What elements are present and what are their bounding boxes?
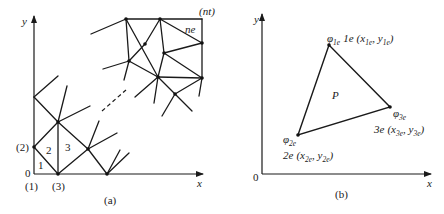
triangle-element (298, 45, 390, 135)
panel-a-x-label: x (196, 177, 202, 189)
vertex-3e (388, 105, 392, 109)
panel-a-origin-label: 0 (25, 167, 31, 179)
element-label-ne: ne (185, 23, 196, 35)
node-label-nt: (nt) (199, 5, 215, 18)
interior-point-label: P (331, 89, 339, 101)
panel-b: y x 0 P φ1e1e(x1e, y1e) φ2e 2e(x2e, y2e)… (253, 13, 432, 201)
vertex-2e-coords: 2e(x2e, y2e) (283, 149, 334, 164)
vertex-3e-phi: φ3e (393, 107, 407, 122)
node-label-2: (2) (16, 141, 29, 154)
element-label-3: 3 (65, 141, 71, 153)
panel-a-y-label: y (21, 15, 27, 27)
mesh-continuation-dashes (102, 90, 126, 111)
panel-b-x-label: x (426, 177, 432, 189)
vertex-2e (296, 133, 300, 137)
figure: y x 0 (1) (2) (3) (nt) 1 2 3 ne (a) y x … (0, 0, 444, 214)
node-label-1: (1) (25, 180, 38, 193)
panel-b-caption: (b) (335, 188, 348, 201)
mesh-lower-left (32, 76, 129, 176)
panel-a: y x 0 (1) (2) (3) (nt) 1 2 3 ne (a) (16, 5, 215, 207)
node-label-3: (3) (52, 180, 65, 193)
vertex-3e-coords: 3e(x3e, y3e) (373, 123, 425, 138)
panel-a-caption: (a) (104, 194, 117, 207)
element-label-2: 2 (46, 144, 52, 156)
element-label-1: 1 (38, 159, 44, 171)
panel-b-origin-label: 0 (253, 171, 259, 183)
vertex-2e-phi: φ2e (283, 133, 297, 148)
vertex-1e-label: φ1e1e(x1e, y1e) (327, 32, 394, 47)
panel-b-y-label: y (253, 13, 259, 25)
